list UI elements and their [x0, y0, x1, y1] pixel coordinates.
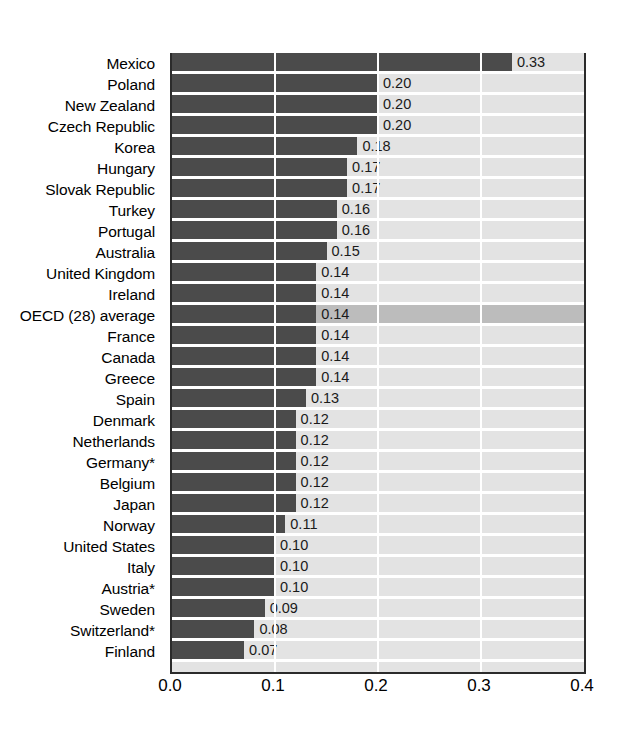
bar-value-label: 0.10: [275, 578, 308, 596]
category-label: Australia: [0, 242, 163, 263]
bar: [172, 116, 378, 134]
bar-value-label: 0.20: [378, 74, 411, 92]
bar: [172, 473, 296, 491]
category-label: France: [0, 326, 163, 347]
bar-value-label: 0.16: [337, 200, 370, 218]
bar: [172, 347, 316, 365]
bar: [172, 641, 244, 659]
bar-chart: MexicoPolandNew ZealandCzech RepublicKor…: [0, 0, 617, 738]
bar: [172, 431, 296, 449]
category-label: Finland: [0, 641, 163, 662]
bar-row: 0.16: [172, 221, 584, 242]
bar-value-label: 0.17: [347, 179, 380, 197]
bar-row: 0.12: [172, 410, 584, 431]
bar-value-label: 0.33: [512, 53, 545, 71]
category-label: Czech Republic: [0, 116, 163, 137]
bar: [172, 137, 357, 155]
bar-row: 0.14: [172, 305, 584, 326]
category-label: Japan: [0, 494, 163, 515]
bar: [172, 200, 337, 218]
bar-value-label: 0.08: [254, 620, 287, 638]
bar: [172, 410, 296, 428]
category-label: Netherlands: [0, 431, 163, 452]
category-axis-labels: MexicoPolandNew ZealandCzech RepublicKor…: [0, 53, 163, 662]
bar-value-label: 0.12: [296, 452, 329, 470]
bar-value-label: 0.12: [296, 473, 329, 491]
category-label: OECD (28) average: [0, 305, 163, 326]
bar: [172, 326, 316, 344]
bar: [172, 515, 285, 533]
bar-row: 0.10: [172, 578, 584, 599]
bar-row: 0.08: [172, 620, 584, 641]
category-label: United States: [0, 536, 163, 557]
bar-row: 0.16: [172, 200, 584, 221]
x-tick-label: 0.2: [364, 676, 388, 696]
bar-row: 0.14: [172, 263, 584, 284]
bar: [172, 263, 316, 281]
bar-row: 0.17: [172, 158, 584, 179]
bar: [172, 389, 306, 407]
bar-row: 0.10: [172, 536, 584, 557]
category-label: Sweden: [0, 599, 163, 620]
bar-row: 0.13: [172, 389, 584, 410]
category-label: Slovak Republic: [0, 179, 163, 200]
bar-value-label: 0.20: [378, 95, 411, 113]
bar: [172, 494, 296, 512]
value-axis: 0.00.10.20.30.4: [170, 676, 582, 716]
x-tick-label: 0.0: [158, 676, 182, 696]
bar-row: 0.33: [172, 53, 584, 74]
bar-row: 0.12: [172, 452, 584, 473]
category-label: Hungary: [0, 158, 163, 179]
bar-row: 0.20: [172, 116, 584, 137]
category-label: Ireland: [0, 284, 163, 305]
bar: [172, 536, 275, 554]
bar: [172, 305, 316, 323]
bar-row: 0.12: [172, 431, 584, 452]
bar-row: 0.12: [172, 494, 584, 515]
bar: [172, 599, 265, 617]
bar-value-label: 0.12: [296, 431, 329, 449]
category-label: Greece: [0, 368, 163, 389]
category-label: Korea: [0, 137, 163, 158]
bar-value-label: 0.14: [316, 263, 349, 281]
bar-row: 0.14: [172, 347, 584, 368]
bar: [172, 284, 316, 302]
bar-value-label: 0.12: [296, 494, 329, 512]
bar-row: 0.11: [172, 515, 584, 536]
bar-row: 0.17: [172, 179, 584, 200]
row-separator: [172, 659, 584, 662]
category-label: United Kingdom: [0, 263, 163, 284]
plot-area: 0.330.200.200.200.180.170.170.160.160.15…: [170, 53, 586, 674]
bar-value-label: 0.20: [378, 116, 411, 134]
bar-row: 0.18: [172, 137, 584, 158]
bar-row: 0.14: [172, 326, 584, 347]
bar-value-label: 0.11: [285, 515, 317, 533]
bar-value-label: 0.14: [316, 305, 349, 323]
bar-row: 0.14: [172, 368, 584, 389]
bar: [172, 578, 275, 596]
bar: [172, 557, 275, 575]
x-tick-label: 0.1: [261, 676, 285, 696]
bar-value-label: 0.16: [337, 221, 370, 239]
category-label: Germany*: [0, 452, 163, 473]
bar-row: 0.20: [172, 95, 584, 116]
category-label: Belgium: [0, 473, 163, 494]
bar-row: 0.12: [172, 473, 584, 494]
category-label: Canada: [0, 347, 163, 368]
x-tick-label: 0.3: [467, 676, 491, 696]
bar: [172, 95, 378, 113]
bar-value-label: 0.14: [316, 326, 349, 344]
bar: [172, 179, 347, 197]
bar-row: 0.10: [172, 557, 584, 578]
bar-row: 0.07: [172, 641, 584, 662]
bar-value-label: 0.15: [327, 242, 360, 260]
bar: [172, 368, 316, 386]
bar-row: 0.09: [172, 599, 584, 620]
bar: [172, 452, 296, 470]
bar: [172, 242, 327, 260]
bar-value-label: 0.10: [275, 557, 308, 575]
bar-row: 0.15: [172, 242, 584, 263]
category-label: Poland: [0, 74, 163, 95]
category-label: Turkey: [0, 200, 163, 221]
bar-value-label: 0.17: [347, 158, 380, 176]
